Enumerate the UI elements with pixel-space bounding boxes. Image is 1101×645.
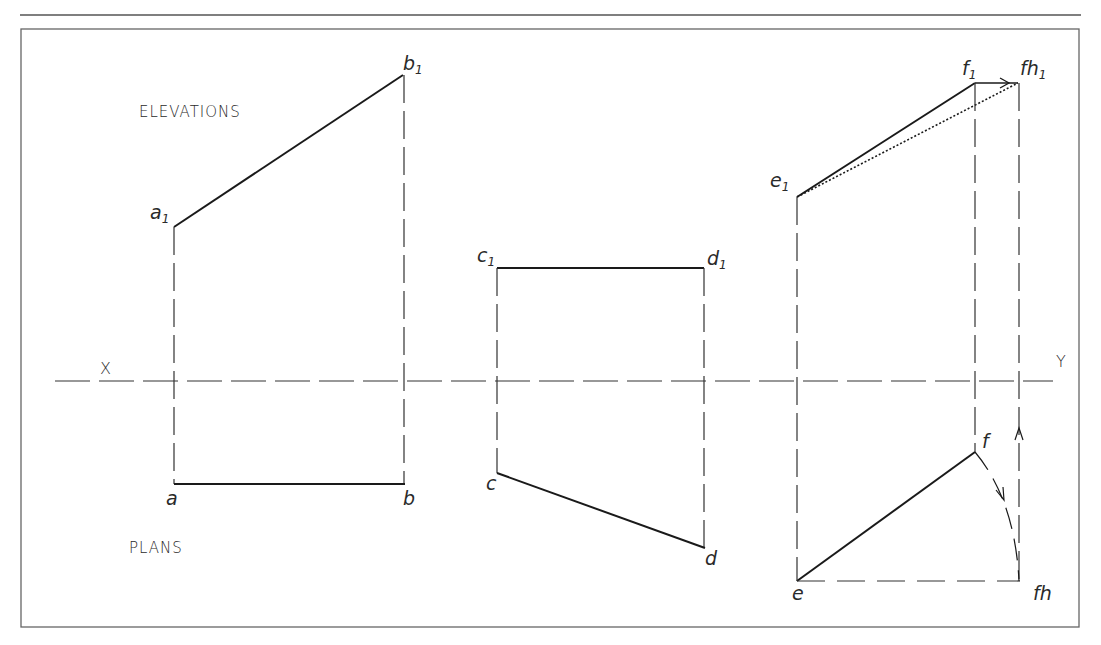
label-a: a xyxy=(166,487,178,509)
label-f1: f1 xyxy=(962,57,976,82)
case-cd xyxy=(497,268,705,548)
label-f: f xyxy=(982,430,992,452)
case-ef xyxy=(797,78,1023,581)
x-axis-label: X xyxy=(100,359,111,378)
label-c: c xyxy=(486,472,497,494)
elevation-line-a1b1 xyxy=(174,75,403,227)
label-a1: a1 xyxy=(150,201,169,226)
label-b: b xyxy=(403,487,415,509)
label-e1: e1 xyxy=(770,169,789,194)
projection-diagram: X Y ELEVATIONS PLANS a1 b1 a b c1 d1 c d… xyxy=(0,0,1101,645)
label-d1: d1 xyxy=(707,247,727,272)
case-ab xyxy=(174,75,405,484)
label-fh1: fh1 xyxy=(1020,57,1046,82)
label-d: d xyxy=(705,547,718,569)
rotation-arc xyxy=(975,452,1019,581)
label-b1: b1 xyxy=(403,52,423,77)
true-length-e1fh1 xyxy=(797,83,1018,197)
elevations-heading: ELEVATIONS xyxy=(139,103,241,121)
label-e: e xyxy=(792,582,804,604)
plan-line-cd xyxy=(497,473,705,548)
elevation-line-e1f1 xyxy=(797,83,975,197)
label-c1: c1 xyxy=(477,244,495,269)
plans-heading: PLANS xyxy=(129,539,183,557)
y-axis-label: Y xyxy=(1056,352,1066,371)
plan-line-ef xyxy=(797,452,975,581)
label-fh: fh xyxy=(1033,582,1052,604)
